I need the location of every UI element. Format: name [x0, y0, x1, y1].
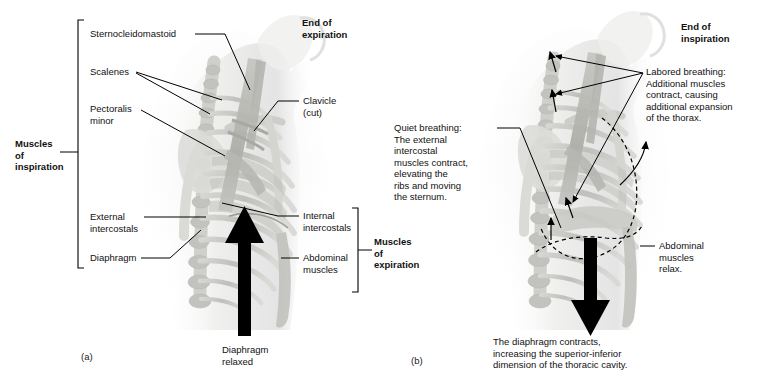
label-abdominal-muscles-relax: Abdominalmusclesrelax. [659, 240, 704, 275]
muscles-of-expiration-bracket [352, 208, 358, 292]
label-pectoralis-minor: Pectoralisminor [90, 103, 132, 126]
label-diaphragm: Diaphragm [90, 252, 136, 264]
caption-diaphragm-contracts: The diaphragm contracts,increasing the s… [493, 336, 627, 371]
label-internal-intercostals: Internalintercostals [303, 210, 351, 233]
panel-letter-a: (a) [81, 351, 93, 362]
label-scalenes: Scalenes [90, 66, 129, 78]
label-clavicle-cut: Clavicle(cut) [303, 95, 336, 118]
label-sternocleidomastoid: Sternocleidomastoid [90, 28, 176, 40]
caption-diaphragm-relaxed: Diaphragmrelaxed [222, 344, 268, 367]
muscles-of-expiration-label: Musclesofexpiration [374, 236, 419, 271]
label-abdominal-muscles: Abdominalmuscles [303, 252, 348, 275]
muscles-of-inspiration-label: Musclesofinspiration [15, 138, 64, 173]
end-of-expiration-heading: End ofexpiration [302, 17, 347, 40]
label-labored-breathing: Labored breathing:Additional musclescont… [646, 66, 733, 124]
muscles-of-inspiration-bracket [78, 20, 84, 268]
end-of-inspiration-heading: End ofinspiration [681, 21, 730, 44]
panel-letter-b: (b) [411, 355, 423, 366]
label-quiet-breathing: Quiet breathing:The externalintercostalm… [394, 122, 468, 203]
panel-a-torso [143, 15, 327, 330]
label-external-intercostals: Externalintercostals [90, 211, 138, 234]
anatomy-illustration [0, 0, 761, 387]
respiration-muscles-figure: End ofexpiration Musclesofinspiration St… [0, 0, 761, 387]
